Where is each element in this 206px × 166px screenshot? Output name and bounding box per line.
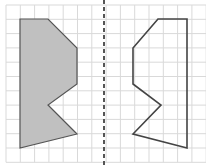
shaded-shape — [20, 19, 77, 148]
symmetry-diagram — [0, 0, 206, 166]
reflected-shape-outline — [133, 19, 187, 148]
